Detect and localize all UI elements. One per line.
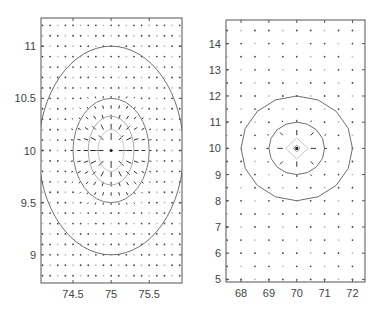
x-tick-label: 70	[291, 287, 303, 299]
chart-canvas: 74.57575.599.51010.511 68697071725678910…	[0, 0, 385, 311]
x-tick-label: 75.5	[139, 288, 160, 300]
y-tick-label: 9	[215, 169, 221, 181]
x-tick-label: 75	[105, 288, 117, 300]
right-panel: 6869707172567891011121314	[209, 20, 365, 299]
y-tick-label: 8	[215, 195, 221, 207]
plot-area	[226, 30, 353, 281]
x-tick-label: 74.5	[62, 288, 83, 300]
y-tick-label: 9	[30, 249, 36, 261]
y-tick-label: 12	[209, 90, 221, 102]
y-tick-label: 5	[215, 273, 221, 285]
y-tick-label: 11	[210, 116, 221, 128]
figure: 74.57575.599.51010.511 68697071725678910…	[0, 0, 385, 311]
x-tick-label: 72	[346, 287, 358, 299]
y-tick-label: 13	[209, 64, 221, 76]
y-tick-label: 11	[25, 40, 36, 52]
left-panel: 74.57575.599.51010.511	[15, 18, 184, 300]
y-tick-label: 10.5	[15, 92, 36, 104]
y-tick-label: 9.5	[21, 197, 36, 209]
y-tick-label: 10	[24, 145, 36, 157]
y-tick-label: 6	[215, 247, 221, 259]
y-tick-label: 14	[209, 38, 221, 50]
quiver-field	[42, 24, 181, 276]
x-tick-label: 71	[318, 287, 330, 299]
plot-area	[39, 24, 184, 276]
quiver-field	[226, 30, 353, 281]
x-tick-label: 69	[263, 287, 275, 299]
y-tick-label: 7	[215, 221, 221, 233]
y-tick-label: 10	[209, 142, 221, 154]
x-tick-label: 68	[235, 287, 247, 299]
